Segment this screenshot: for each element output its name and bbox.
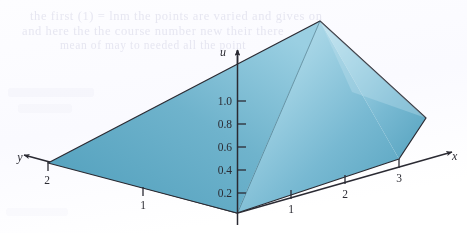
ghost-line-3: mean of may to needed all the point (60, 39, 246, 52)
ghost-line-1: the first (1) = lnm the points are varie… (30, 9, 323, 23)
y-axis-label: y (16, 150, 23, 164)
y-tick-label-1: 1 (140, 199, 146, 211)
x-tick-label-1: 1 (288, 203, 294, 215)
ghost-smudge-2 (18, 104, 72, 113)
x-tick-label-2: 2 (342, 188, 348, 200)
u-tick-label-0p8: 0.8 (218, 118, 233, 130)
x-axis-label: x (451, 149, 458, 163)
ghost-smudge-3 (6, 208, 68, 216)
u-tick-label-1p0: 1.0 (218, 95, 233, 107)
surface-plot-svg: the first (1) = lnm the points are varie… (0, 0, 467, 233)
u-axis-label: u (220, 45, 226, 59)
figure-container: the first (1) = lnm the points are varie… (0, 0, 467, 233)
ghost-line-2: and here the the course number new their… (22, 24, 284, 38)
u-tick-label-0p6: 0.6 (218, 141, 233, 153)
x-tick-label-3: 3 (396, 172, 402, 184)
ghost-smudge-1 (8, 88, 94, 97)
u-tick-label-0p2: 0.2 (218, 187, 233, 199)
y-tick-label-2: 2 (44, 174, 50, 186)
u-tick-label-0p4: 0.4 (218, 164, 233, 176)
